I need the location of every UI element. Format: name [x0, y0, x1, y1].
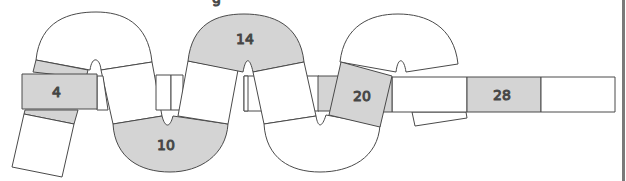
tile-20-label: 20 [353, 88, 371, 104]
tile-14-label: 14 [236, 31, 254, 47]
tile-10-label: 10 [157, 137, 175, 153]
strip-segment-g [392, 77, 467, 112]
cropped-title-text: g [212, 0, 221, 6]
winding-strip-diagram: g 10 14 [0, 0, 626, 181]
tilted-tile-bottom-left [12, 114, 74, 177]
arch-1-top [36, 12, 152, 70]
tile-4-label: 4 [52, 84, 61, 100]
arch-5-top [340, 14, 458, 72]
diagram-canvas: g 10 14 [0, 0, 626, 181]
strip-segment-b [156, 75, 171, 110]
arch-4-bottom [264, 115, 380, 172]
tile-28-label: 28 [493, 87, 511, 103]
ramp-3-tile [253, 62, 316, 124]
right-edge-bar [622, 0, 625, 181]
ramp-2-tile [178, 61, 238, 124]
strip-segment-e [244, 76, 248, 111]
ramp-1-tile [101, 62, 162, 124]
tilted-tile-right [412, 112, 467, 126]
strip-end-tile [541, 77, 615, 112]
